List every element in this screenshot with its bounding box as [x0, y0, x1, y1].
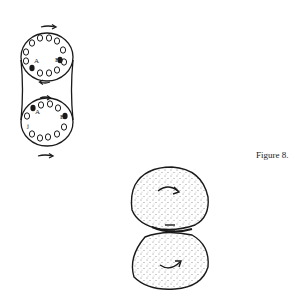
figure-caption: Figure 8.	[256, 150, 289, 160]
label-upper-b: B	[55, 56, 60, 64]
bottom-blob-drawing	[110, 145, 230, 298]
label-lower-b: B	[60, 113, 65, 121]
label-upper-a: A	[34, 57, 39, 65]
top-disc-drawing: A B A B j	[0, 0, 120, 200]
rotation-arrow-icon	[41, 26, 55, 27]
label-lower-a: A	[35, 108, 40, 116]
label-lower-j: j	[26, 122, 29, 130]
